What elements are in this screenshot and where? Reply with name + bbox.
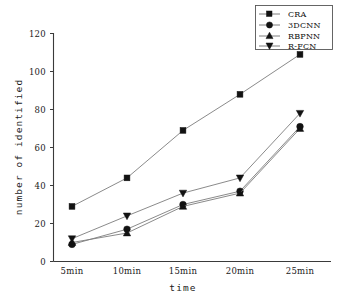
series-line-3dcnn	[72, 127, 300, 245]
datapoint-cra-20min	[237, 91, 243, 97]
legend-label-rbpnn: RBPNN	[288, 32, 320, 41]
y-tick-label-80: 80	[35, 105, 46, 115]
series-rbpnn	[68, 125, 303, 246]
legend-label-rfcn: R-FCN	[288, 42, 316, 51]
y-tick-label-40: 40	[35, 181, 46, 191]
datapoint-cra-15min	[180, 128, 186, 134]
x-tick-label-15min: 15min	[169, 266, 198, 276]
datapoint-cra-25min	[297, 52, 303, 58]
axis-group	[54, 33, 332, 262]
square-icon	[267, 11, 273, 17]
y-tick-label-60: 60	[35, 143, 46, 153]
series-3dcnn	[69, 123, 304, 247]
datapoint-r-fcn-10min	[123, 213, 130, 220]
y-tick-label-20: 20	[35, 219, 46, 229]
series-cra	[69, 52, 303, 210]
legend-label-cra: CRA	[288, 10, 307, 19]
legend-label-3dcnn: 3DCNN	[288, 21, 321, 30]
x-tick-labels: 5min 10min 15min 20min 25min	[61, 266, 315, 276]
series-layer	[68, 52, 303, 248]
x-tick-label-20min: 20min	[226, 266, 255, 276]
datapoint-r-fcn-5min	[68, 236, 75, 243]
datapoint-cra-10min	[124, 175, 130, 181]
y-axis-title: number of identified	[13, 79, 24, 215]
chart-canvas: 0 20 40 60 80 100 120 5min 10min 15min 2…	[0, 0, 338, 307]
x-tick-label-10min: 10min	[113, 266, 142, 276]
datapoint-r-fcn-15min	[179, 190, 186, 197]
circle-icon	[266, 22, 272, 28]
legend: CRA 3DCNN RBPNN R-FCN	[256, 6, 333, 52]
y-tick-label-120: 120	[29, 29, 46, 39]
x-tick-label-25min: 25min	[286, 266, 315, 276]
y-tick-labels: 0 20 40 60 80 100 120	[29, 29, 46, 267]
x-tick-label-5min: 5min	[61, 266, 84, 276]
line-chart: 0 20 40 60 80 100 120 5min 10min 15min 2…	[0, 0, 338, 307]
y-tick-label-100: 100	[29, 67, 46, 77]
x-axis-title: time	[169, 282, 196, 293]
series-line-rbpnn	[72, 129, 300, 243]
y-tick-label-0: 0	[40, 257, 46, 267]
datapoint-cra-5min	[69, 204, 75, 210]
